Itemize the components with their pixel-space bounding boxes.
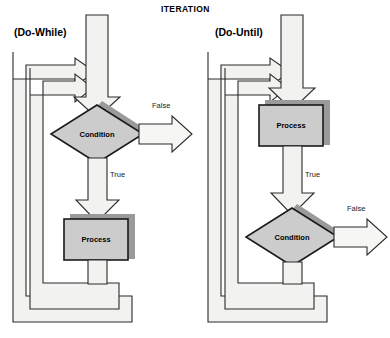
- do-until-label: (Do-Until): [215, 26, 263, 38]
- do-while-true-label: True: [110, 170, 125, 179]
- do-until-process-text: Process: [259, 121, 323, 130]
- do-until-false-exit-arrow: [334, 219, 387, 255]
- do-until-false-label: False: [347, 204, 365, 213]
- do-while-label: (Do-While): [14, 26, 67, 38]
- do-until-true-label: True: [305, 170, 320, 179]
- iteration-flowchart-diagram: ITERATION (Do-While) (Do-Until) False Tr…: [0, 0, 390, 338]
- do-while-false-label: False: [152, 101, 170, 110]
- do-while-process-text: Process: [64, 235, 128, 244]
- do-until-true-arrow: [271, 146, 314, 215]
- diagram-title: ITERATION: [161, 4, 210, 14]
- do-while-condition-text: Condition: [57, 130, 137, 139]
- do-until-condition-text: Condition: [252, 233, 332, 242]
- do-until-flowchart: [195, 0, 390, 338]
- do-while-process-exit-stub: [88, 260, 107, 284]
- do-while-false-exit-arrow: [139, 116, 192, 152]
- do-while-true-arrow: [76, 158, 119, 222]
- do-until-condition-exit-stub: [283, 262, 302, 284]
- do-while-flowchart: [0, 0, 195, 338]
